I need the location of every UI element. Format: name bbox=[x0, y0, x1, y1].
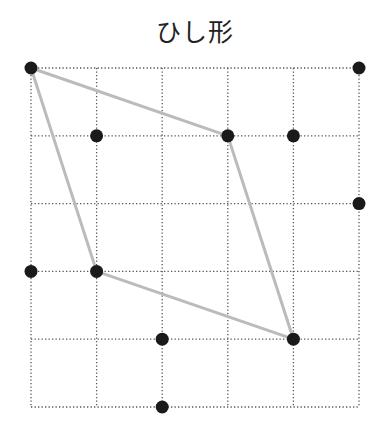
dotted-grid bbox=[31, 68, 359, 407]
grid-dot bbox=[156, 333, 169, 346]
grid-dot bbox=[221, 129, 234, 142]
grid-dot bbox=[353, 197, 366, 210]
grid-dot bbox=[25, 265, 38, 278]
grid-diagram bbox=[0, 0, 389, 428]
grid-dot bbox=[90, 265, 103, 278]
grid-dot bbox=[287, 333, 300, 346]
grid-dot bbox=[156, 401, 169, 414]
grid-dots bbox=[25, 62, 366, 414]
grid-dot bbox=[90, 129, 103, 142]
grid-dot bbox=[287, 129, 300, 142]
grid-dot bbox=[25, 62, 38, 75]
grid-dot bbox=[353, 62, 366, 75]
